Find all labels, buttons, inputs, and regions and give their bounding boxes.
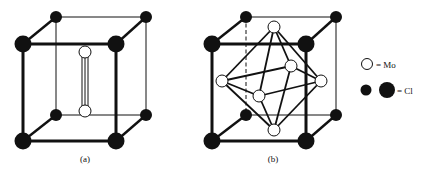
panel-b-label: (b) — [268, 154, 279, 164]
mo-legend-icon — [362, 59, 373, 70]
cl-large-legend-icon — [379, 82, 395, 98]
legend: = Mo = Cl — [361, 59, 414, 99]
panel-a-cube — [15, 11, 153, 150]
figure-canvas: (a) — [0, 0, 430, 170]
mo-legend-label: = Mo — [376, 60, 396, 70]
cl-legend-label: = Cl — [397, 86, 413, 96]
mo-mo-bond — [82, 52, 88, 111]
cl-atoms-back — [50, 11, 152, 121]
cl-small-legend-icon — [361, 85, 372, 96]
panel-b-cube — [204, 11, 343, 150]
cl-atoms-front — [15, 36, 125, 150]
panel-a-label: (a) — [80, 154, 90, 164]
